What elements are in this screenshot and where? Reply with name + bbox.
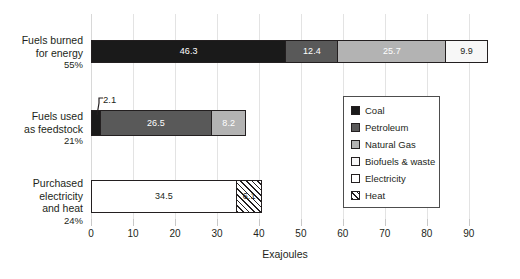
bar-row[interactable]: 34.56.1 <box>91 180 262 213</box>
x-tick-label: 10 <box>127 228 138 239</box>
x-axis: 0102030405060708090 <box>91 219 494 249</box>
category-label-line2: as feedstock <box>24 123 83 135</box>
bar-segment-natural-gas[interactable]: 8.2 <box>211 110 246 136</box>
bar-segment-electricity[interactable]: 34.5 <box>91 180 237 213</box>
x-tick-mark <box>469 219 470 226</box>
category-label-line1: Fuels burned <box>22 34 83 46</box>
legend-swatch-coal-icon <box>351 106 360 115</box>
legend-label: Biofuels & waste <box>365 157 435 167</box>
bar-segment-value: 8.2 <box>222 119 235 128</box>
x-tick-label: 40 <box>253 228 264 239</box>
bar-segment-value: 6.1 <box>243 192 256 201</box>
legend-swatch-naturalgas-icon <box>351 140 360 149</box>
x-tick-label: 30 <box>211 228 222 239</box>
x-tick-mark <box>343 219 344 226</box>
x-tick-label: 0 <box>88 228 94 239</box>
legend-swatch-biofuels-icon <box>351 157 360 166</box>
legend-label: Heat <box>365 191 385 201</box>
category-label-line1: Purchased <box>33 177 83 189</box>
bar-row[interactable]: 46.312.425.79.9 <box>91 40 488 63</box>
legend-item[interactable]: Petroleum <box>351 119 439 136</box>
category-label-line2: for energy <box>36 47 83 59</box>
x-tick-label: 70 <box>379 228 390 239</box>
legend-label: Electricity <box>365 174 406 184</box>
bar-segment-natural-gas[interactable]: 25.7 <box>337 40 446 63</box>
x-tick-mark <box>175 219 176 226</box>
legend-item[interactable]: Natural Gas <box>351 136 439 153</box>
callout-value: 2.1 <box>103 94 116 105</box>
x-tick-mark <box>217 219 218 226</box>
callout-2-1: 2.1 <box>86 95 132 119</box>
category-label-fuels-feedstock: Fuels used as feedstock 21% <box>0 110 83 148</box>
category-label-line3: and heat <box>42 202 83 214</box>
bar-segment-value: 26.5 <box>147 119 165 128</box>
legend-item[interactable]: Coal <box>351 102 439 119</box>
category-label-fuels-burned: Fuels burned for energy 55% <box>0 34 83 72</box>
bar-segment-value: 25.7 <box>383 47 401 56</box>
stacked-bar-chart: 46.312.425.79.926.58.234.56.1 Fuels burn… <box>0 0 520 279</box>
bar-segment-coal[interactable]: 46.3 <box>91 40 286 63</box>
x-tick-label: 20 <box>169 228 180 239</box>
legend-swatch-heat-icon <box>351 191 360 200</box>
legend-swatch-petroleum-icon <box>351 123 360 132</box>
bar-segment-petroleum[interactable]: 12.4 <box>285 40 338 63</box>
bar-segment-heat[interactable]: 6.1 <box>236 180 263 213</box>
x-tick-label: 80 <box>421 228 432 239</box>
category-percent: 21% <box>0 135 83 148</box>
bar-segment-value: 12.4 <box>303 47 321 56</box>
x-tick-label: 90 <box>463 228 474 239</box>
legend-label: Natural Gas <box>365 140 416 150</box>
bar-segment-value: 9.9 <box>460 47 473 56</box>
legend-label: Coal <box>365 106 385 116</box>
x-tick-mark <box>91 219 92 226</box>
x-tick-mark <box>133 219 134 226</box>
x-tick-label: 60 <box>337 228 348 239</box>
x-tick-mark <box>259 219 260 226</box>
bar-segment-value: 34.5 <box>155 192 173 201</box>
x-tick-mark <box>385 219 386 226</box>
category-label-line2: electricity <box>39 190 83 202</box>
legend-item[interactable]: Electricity <box>351 170 439 187</box>
x-axis-title: Exajoules <box>0 248 520 260</box>
x-tick-label: 50 <box>295 228 306 239</box>
legend-item[interactable]: Biofuels & waste <box>351 153 439 170</box>
legend-label: Petroleum <box>365 123 408 133</box>
bar-segment-biofuels-waste[interactable]: 9.9 <box>445 40 488 63</box>
category-label-purchased-electricity: Purchased electricity and heat 24% <box>0 177 83 227</box>
legend: CoalPetroleumNatural GasBiofuels & waste… <box>343 96 440 208</box>
category-label-line1: Fuels used <box>32 110 83 122</box>
x-tick-mark <box>427 219 428 226</box>
category-percent: 55% <box>0 59 83 72</box>
x-tick-mark <box>301 219 302 226</box>
category-percent: 24% <box>0 215 83 228</box>
bar-segment-value: 46.3 <box>180 47 198 56</box>
legend-swatch-electricity-icon <box>351 174 360 183</box>
legend-item[interactable]: Heat <box>351 187 439 204</box>
